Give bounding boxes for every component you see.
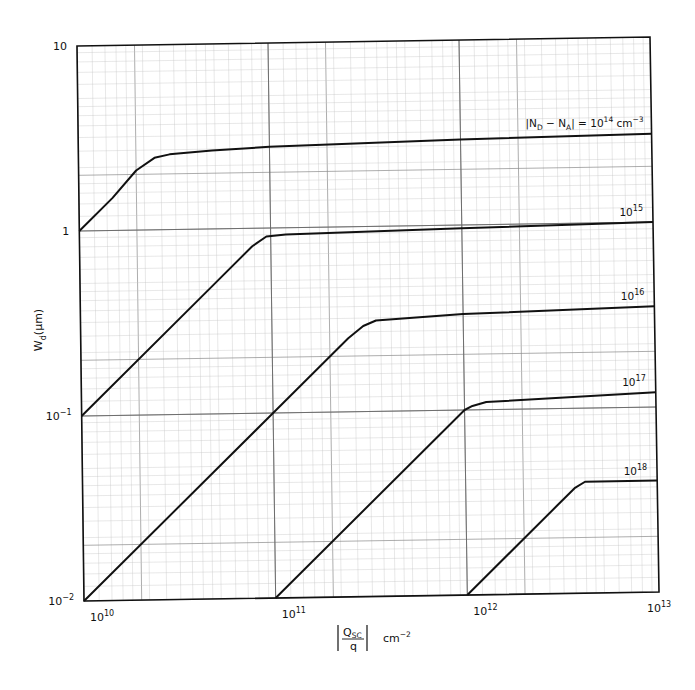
curve-label-18: 1018 <box>624 463 648 477</box>
x-tick-label: 1011 <box>282 606 306 621</box>
y-axis-ticks: 10−210−1110 <box>46 40 74 608</box>
curve-label-16: 1016 <box>621 288 645 302</box>
curve-label-17: 1017 <box>622 374 646 388</box>
y-tick-label: 10−2 <box>48 593 74 608</box>
x-axis-ticks: 1010101110121013 <box>90 600 671 624</box>
x-tick-label: 1010 <box>90 609 114 624</box>
svg-text:cm−2: cm−2 <box>383 630 411 645</box>
curve-label-main: |ND − NA| = 1014 cm−3 <box>526 115 644 132</box>
svg-text:q: q <box>350 640 357 653</box>
curve-label-15: 1015 <box>619 204 643 218</box>
y-axis-label: Wd(μm) <box>32 309 48 351</box>
curve-doping-16 <box>84 306 654 601</box>
y-tick-label: 10−1 <box>46 408 72 423</box>
svg-text:QSC: QSC <box>343 626 362 640</box>
x-axis-label: QSC q cm−2 <box>338 625 411 653</box>
y-tick-label: 10 <box>53 40 67 53</box>
y-tick-label: 1 <box>62 225 69 238</box>
x-tick-label: 1012 <box>473 603 497 618</box>
svg-text:Wd(μm): Wd(μm) <box>32 309 48 351</box>
depletion-width-chart: 10−210−1110 1010101110121013 |ND − NA| =… <box>0 0 695 690</box>
x-tick-label: 1013 <box>647 600 671 615</box>
